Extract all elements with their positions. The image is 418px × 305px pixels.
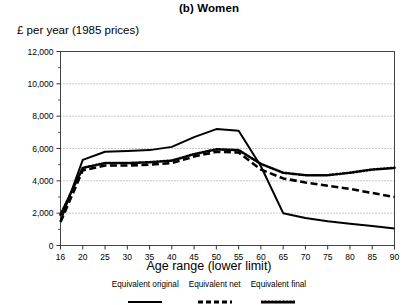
series-line-0 [61, 129, 395, 228]
legend-entry-1[interactable]: Equivalent net [189, 280, 241, 297]
y-tick-label: 4,000 [0, 176, 54, 186]
legend-swatch-dotted [261, 291, 295, 297]
legend-entry-0[interactable]: Equivalent original [112, 280, 179, 297]
chart-figure: (b) Women £ per year (1985 prices) 02,00… [0, 0, 418, 305]
legend-entry-2[interactable]: Equivalent final [251, 280, 307, 297]
x-axis-label: Age range (lower limit) [0, 259, 418, 273]
y-tick-label: 12,000 [0, 47, 54, 57]
series-line-2 [61, 149, 395, 214]
legend-label: Equivalent final [251, 280, 307, 290]
legend-label: Equivalent net [189, 280, 241, 290]
data-series-group [61, 129, 395, 228]
y-tick-label: 2,000 [0, 208, 54, 218]
legend-label: Equivalent original [112, 280, 179, 290]
y-tick-label: 6,000 [0, 144, 54, 154]
legend-swatch-solid [128, 291, 162, 297]
chart-legend: Equivalent originalEquivalent netEquival… [0, 280, 418, 297]
legend-swatch-dashed [198, 291, 232, 297]
y-tick-label: 0 [0, 241, 54, 251]
y-tick-label: 8,000 [0, 111, 54, 121]
y-tick-label: 10,000 [0, 79, 54, 89]
